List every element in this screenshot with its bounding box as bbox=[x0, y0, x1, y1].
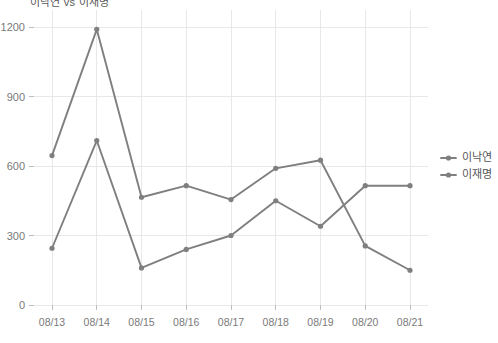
line-chart-plot: 03006009001200 08/1308/1408/1508/1608/17… bbox=[0, 0, 498, 343]
x-axis-tick-label: 08/19 bbox=[307, 316, 333, 328]
data-point bbox=[318, 224, 323, 229]
x-axis-tick-label: 08/13 bbox=[39, 316, 65, 328]
data-point bbox=[363, 183, 368, 188]
data-point bbox=[407, 268, 412, 273]
legend-item-label[interactable]: 이재명 bbox=[462, 168, 492, 180]
y-axis-tick-label: 300 bbox=[7, 230, 25, 242]
x-axis-tick-label: 08/21 bbox=[397, 316, 423, 328]
y-axis-tick-label: 1200 bbox=[1, 21, 25, 33]
chart-container: 이낙연 vs 이재명 03006009001200 08/1308/1408/1… bbox=[0, 0, 498, 343]
x-axis-tick-label: 08/18 bbox=[263, 316, 289, 328]
data-point bbox=[318, 158, 323, 163]
data-point bbox=[363, 243, 368, 248]
x-axis-tick-labels: 08/1308/1408/1508/1608/1708/1808/1908/20… bbox=[39, 316, 423, 328]
y-axis-tick-label: 600 bbox=[7, 160, 25, 172]
data-point bbox=[49, 153, 54, 158]
y-axis-tick-label: 900 bbox=[7, 91, 25, 103]
y-axis-tick-label: 0 bbox=[19, 299, 25, 311]
chart-legend: 이낙연이재명 bbox=[441, 151, 492, 180]
x-axis-tick-label: 08/20 bbox=[352, 316, 378, 328]
data-point bbox=[228, 233, 233, 238]
y-tick-marks bbox=[29, 27, 34, 305]
legend-swatch-marker bbox=[446, 172, 451, 177]
x-axis-tick-label: 08/16 bbox=[173, 316, 199, 328]
x-gridlines bbox=[52, 10, 410, 305]
data-point bbox=[184, 183, 189, 188]
data-point bbox=[49, 246, 54, 251]
data-point bbox=[94, 138, 99, 143]
x-axis-tick-label: 08/15 bbox=[128, 316, 154, 328]
data-point bbox=[273, 198, 278, 203]
data-point bbox=[139, 265, 144, 270]
data-point bbox=[94, 27, 99, 32]
y-axis-tick-labels: 03006009001200 bbox=[1, 21, 25, 311]
data-point bbox=[184, 247, 189, 252]
data-point bbox=[407, 183, 412, 188]
x-axis-tick-label: 08/17 bbox=[218, 316, 244, 328]
data-point bbox=[273, 166, 278, 171]
x-tick-marks bbox=[52, 305, 410, 310]
legend-item-label[interactable]: 이낙연 bbox=[462, 151, 492, 163]
data-point bbox=[139, 195, 144, 200]
legend-swatch-marker bbox=[446, 155, 451, 160]
x-axis-tick-label: 08/14 bbox=[84, 316, 110, 328]
data-point bbox=[228, 197, 233, 202]
